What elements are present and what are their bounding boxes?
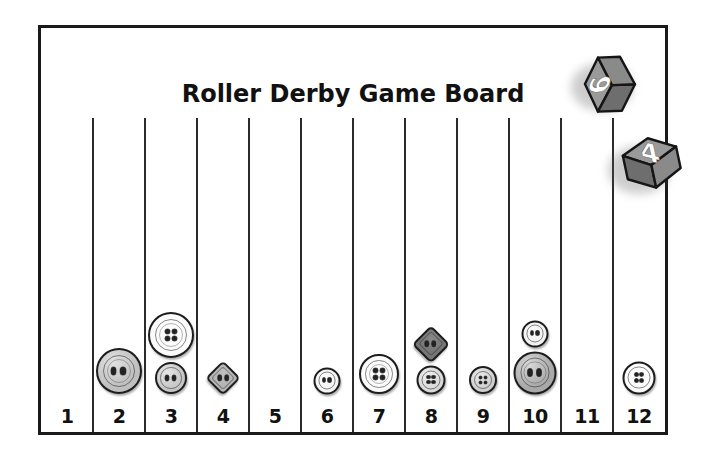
button-hole [172,375,176,381]
lane-label-1: 1 [41,403,93,429]
lane-label-9: 9 [457,403,509,429]
button-hole [328,378,331,383]
dark-gray-diamond-two-hole-button[interactable] [418,331,445,358]
button-hole [432,341,436,347]
button-hole [484,381,487,384]
button-hole [427,375,431,379]
lane-label-6: 6 [301,403,353,429]
button-holes [165,375,177,381]
button-hole [425,341,429,347]
button-hole [484,376,487,379]
die-four[interactable]: 4 [612,128,692,208]
lane-divider-line [508,118,510,432]
button-hole [373,368,378,373]
button-hole [380,375,385,380]
button-hole [224,375,228,381]
button-hole [120,367,126,375]
button-holes [427,375,435,383]
button-holes [634,373,643,382]
button-holes [165,329,178,342]
lane-divider-line [92,118,94,432]
large-white-four-hole-button[interactable] [148,312,194,358]
button-hole [432,380,436,384]
round-button-body [514,351,557,394]
button-hole [536,368,541,376]
button-hole [380,368,385,373]
button-hole [527,368,532,376]
lane-divider-line [352,118,354,432]
round-button-body [314,367,341,394]
lane-label-7: 7 [353,403,405,429]
die-cube: 4 [605,121,700,216]
button-hole [479,376,482,379]
round-button-body [522,320,549,347]
white-four-hole-button[interactable] [359,354,399,394]
small-gray-four-hole-button[interactable] [469,366,497,394]
button-hole [640,373,644,377]
button-hole [373,375,378,380]
button-hole [427,380,431,384]
button-holes [530,331,540,336]
button-hole [634,373,638,377]
button-hole [172,336,178,342]
diamond-button-body [412,325,449,362]
lane-divider-line [300,118,302,432]
lane-label-4: 4 [197,403,249,429]
lane-label-3: 3 [145,403,197,429]
small-gray-four-hole-button[interactable] [417,365,446,394]
button-holes [425,341,437,348]
button-hole [111,367,117,375]
small-gray-two-hole-button[interactable] [155,362,187,394]
button-hole [322,378,325,383]
lane-divider-line [404,118,406,432]
lane-divider-line [456,118,458,432]
large-gray-two-hole-button[interactable] [96,348,142,394]
button-hole [165,336,171,342]
lane-label-12: 12 [613,403,665,429]
button-hole [530,331,533,336]
lane-label-10: 10 [509,403,561,429]
lane-divider-line [144,118,146,432]
button-holes [322,378,332,383]
lane-divider-line [248,118,250,432]
button-hole [432,375,436,379]
button-hole [172,329,178,335]
button-hole [479,381,482,384]
lane-label-11: 11 [561,403,613,429]
die-six[interactable]: 6 [575,45,655,125]
round-button-body [148,312,194,358]
button-hole [536,331,539,336]
white-four-hole-button[interactable] [623,361,656,394]
lane-label-2: 2 [93,403,145,429]
button-hole [217,375,221,381]
lane-divider-line [196,118,198,432]
button-holes [217,375,229,381]
button-hole [165,375,169,381]
button-holes [527,368,543,376]
round-button-body [155,362,187,394]
button-holes [111,367,128,376]
small-white-two-hole-button[interactable] [522,320,549,347]
gray-diamond-two-hole-button[interactable] [211,366,236,391]
large-gray-two-hole-button[interactable] [514,351,557,394]
button-holes [373,368,384,379]
round-button-body [469,366,497,394]
lane-label-8: 8 [405,403,457,429]
small-white-two-hole-button[interactable] [314,367,341,394]
round-button-body [96,348,142,394]
die-cube: 6 [574,44,657,127]
button-hole [640,378,644,382]
game-board-image: Roller Derby Game Board 123456789101112 … [0,0,724,463]
round-button-body [623,361,656,394]
round-button-body [417,365,446,394]
diamond-button-body [205,360,240,395]
lane-label-5: 5 [249,403,301,429]
lane-divider-line [560,118,562,432]
button-hole [634,378,638,382]
button-hole [165,329,171,335]
button-holes [479,376,487,384]
round-button-body [359,354,399,394]
